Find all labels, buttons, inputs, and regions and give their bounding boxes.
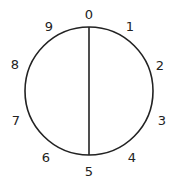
label-1: 1: [126, 19, 134, 34]
circle-diagram: 0123456789: [0, 0, 175, 178]
label-6: 6: [42, 150, 50, 165]
label-0: 0: [85, 7, 93, 22]
label-4: 4: [128, 150, 136, 165]
label-8: 8: [11, 57, 19, 72]
label-5: 5: [85, 164, 93, 178]
label-3: 3: [158, 113, 166, 128]
label-9: 9: [45, 19, 53, 34]
label-7: 7: [12, 113, 20, 128]
label-2: 2: [156, 58, 164, 73]
